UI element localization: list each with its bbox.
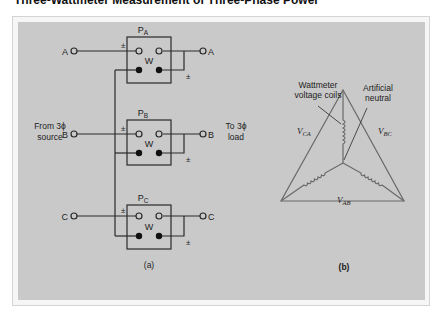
neutral-label-2: neutral [365,93,391,103]
polarity-mark: ± [186,238,191,247]
terminal [156,131,162,137]
polarity-mark: ± [121,124,126,133]
panel-b [281,90,404,201]
voltage-ca-label: VCA [297,126,311,137]
polarity-mark: ± [186,155,191,164]
phase-c-in-label: C [62,212,69,222]
phase-a-in-label: A [62,47,68,57]
terminal [136,48,142,54]
meter-w-a: W [145,56,154,66]
voltage-terminal [136,233,142,239]
terminal-b-in [71,131,77,137]
meter-w-b: W [145,139,154,149]
terminal [156,213,162,219]
neutral-leader-line [344,108,367,160]
terminal-a-in [71,48,77,54]
polarity-mark: ± [186,72,191,81]
voltage-coil-c [281,163,343,201]
terminal-a-out [200,48,206,54]
load-label: To 3ϕ [226,121,247,131]
caption-a: (a) [144,260,155,270]
coils-label: Wattmeter [299,80,338,90]
wattmeter-a-label: PA [138,25,149,36]
terminal [136,131,142,137]
wattmeter-c-label: PC [138,193,149,204]
phase-b-out-label: B [208,130,214,140]
phase-c-out-label: C [208,212,215,222]
voltage-bc-label: VBC [378,126,392,137]
voltage-terminal [136,67,142,73]
terminal-c-out [200,213,206,219]
voltage-terminal [156,67,162,73]
wattmeter-b-label: PB [138,108,148,119]
meter-w-c: W [145,222,154,232]
coils-leader-line [318,106,341,124]
terminal [156,48,162,54]
source-label-2: source [37,132,63,142]
voltage-coil-b [343,163,404,201]
voltage-terminal [156,150,162,156]
terminal-b-out [200,131,206,137]
source-label: From 3ϕ [34,121,66,131]
terminal [136,213,142,219]
circuit-diagram: PA PB PC W W W ± ± ± ± ± ± A A B B C C F… [0,0,445,315]
terminal-c-in [71,213,77,219]
neutral-label: Artificial [363,83,393,93]
coils-label-2: voltage coils [295,90,342,100]
voltage-coil-a [343,90,345,163]
polarity-mark: ± [121,41,126,50]
polarity-mark: ± [121,206,126,215]
voltage-terminal [156,233,162,239]
caption-b: (b) [339,262,350,272]
phase-b-in-label: B [62,130,68,140]
voltage-ab-label: VAB [337,195,350,206]
load-label-2: load [228,132,244,142]
phase-a-out-label: A [208,47,214,57]
voltage-terminal [136,150,142,156]
